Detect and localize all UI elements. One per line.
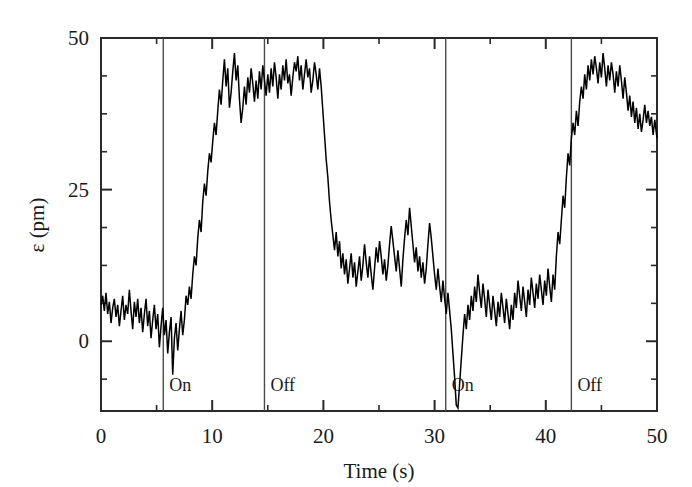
y-tick-label: 50 xyxy=(68,26,89,50)
y-axis-tick-labels: 02550 xyxy=(68,26,89,353)
y-axis-title: ε (pm) xyxy=(25,198,49,253)
data-trace-group xyxy=(101,53,657,408)
y-tick-label: 0 xyxy=(79,329,90,353)
event-marker-lines xyxy=(163,38,571,411)
chart-figure: 01020304050 02550 OnOffOnOff Time (s) ε … xyxy=(0,0,692,487)
event-annotation-off: Off xyxy=(577,375,602,395)
event-annotation-off: Off xyxy=(270,375,295,395)
x-tick-label: 20 xyxy=(313,424,334,448)
x-axis-tick-labels: 01020304050 xyxy=(96,424,668,448)
x-tick-label: 50 xyxy=(647,424,668,448)
strain-vs-time-plot: 01020304050 02550 OnOffOnOff Time (s) ε … xyxy=(0,0,692,487)
x-tick-label: 40 xyxy=(535,424,556,448)
axes-border xyxy=(101,38,657,411)
y-tick-label: 25 xyxy=(68,178,89,202)
x-axis-title: Time (s) xyxy=(344,459,415,483)
plot-frame xyxy=(101,38,657,411)
event-annotation-labels: OnOffOnOff xyxy=(169,375,602,395)
event-annotation-on: On xyxy=(169,375,191,395)
y-axis-ticks xyxy=(101,38,657,379)
x-tick-label: 30 xyxy=(424,424,445,448)
x-tick-label: 0 xyxy=(96,424,107,448)
x-tick-label: 10 xyxy=(202,424,223,448)
strain-trace xyxy=(101,53,657,408)
x-axis-ticks xyxy=(101,38,657,411)
